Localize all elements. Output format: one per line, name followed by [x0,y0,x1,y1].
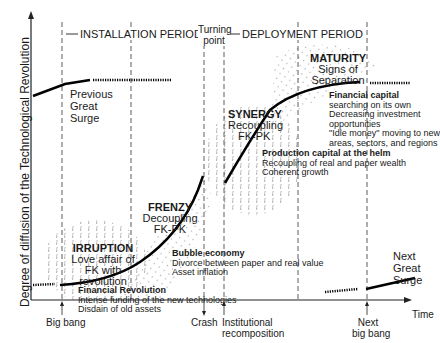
next-surge-dotted [325,289,358,292]
note-financial-revolution: Financial Revolution Intense funding of … [78,286,237,315]
turning-point-label: Turningpoint [198,24,230,46]
note-production-capital: Production capital at the helm Recouplin… [262,149,406,178]
phase-irruption: IRRUPTION Love affair ofFK withrevolutio… [68,243,138,287]
x-axis-arrow-icon [404,297,412,303]
y-axis-arrow-icon [28,11,34,19]
next-surge-label: NextGreatSurge [393,250,422,286]
phase-synergy: SYNERGY RecouplingFK-PK [228,109,283,142]
note-bubble-economy: Bubble economy Divorce between paper and… [172,249,324,278]
event-institutional-recomposition: Institutionalrecomposition [222,317,284,339]
previous-surge-label: PreviousGreatSurge [70,88,113,124]
event-next-big-bang: Nextbig bang [352,317,384,339]
y-axis-label: Degree of diffusion of the Technological… [18,32,32,312]
next-big-bang-arrow-icon [365,301,369,306]
phase-maturity: MATURITY Signs ofSeparation [308,53,368,86]
note-financial-capital: Financial capital searching on its ownDe… [329,91,440,148]
event-big-bang: Big bang [46,317,85,328]
phase-frenzy: FRENZY DecouplingFK-PK [140,202,200,235]
big-bang-arrow-icon [60,301,64,306]
installation-period-label: INSTALLATION PERIOD [78,28,204,40]
event-crash: Crash [191,317,218,328]
deployment-period-label: DEPLOYMENT PERIOD [240,28,365,40]
x-axis-label: Time [412,309,434,320]
